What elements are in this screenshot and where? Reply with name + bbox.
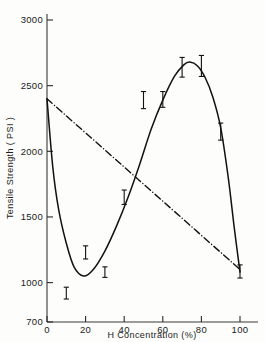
error-bar xyxy=(102,267,107,278)
x-tick-label: 100 xyxy=(232,324,249,335)
y-tick-label: 2000 xyxy=(21,146,43,157)
dash-dot-series xyxy=(47,99,240,270)
x-tick-label: 20 xyxy=(80,324,91,335)
error-bar xyxy=(237,265,242,278)
error-bar xyxy=(141,92,146,109)
x-axis-title: H Concentration (%) xyxy=(107,330,196,340)
error-bar xyxy=(83,246,88,259)
y-tick-label: 2500 xyxy=(21,80,43,91)
x-tick-label: 0 xyxy=(44,324,50,335)
error-bar xyxy=(180,57,185,77)
y-tick-label: 1500 xyxy=(21,211,43,222)
y-tick-label: 3000 xyxy=(21,14,43,25)
figure-container: 70010001500200025003000 020406080100 H C… xyxy=(0,0,265,342)
y-tick-label: 1000 xyxy=(21,277,43,288)
error-bar xyxy=(64,287,69,299)
y-axis-ticks: 70010001500200025003000 xyxy=(21,14,53,327)
y-tick-label: 700 xyxy=(26,316,43,327)
tensile-strength-chart: 70010001500200025003000 020406080100 H C… xyxy=(0,0,265,342)
x-tick-label: 80 xyxy=(196,324,207,335)
y-axis-title: Tensile Strength ( PSI ) xyxy=(5,117,15,219)
error-bars-group xyxy=(64,55,243,299)
